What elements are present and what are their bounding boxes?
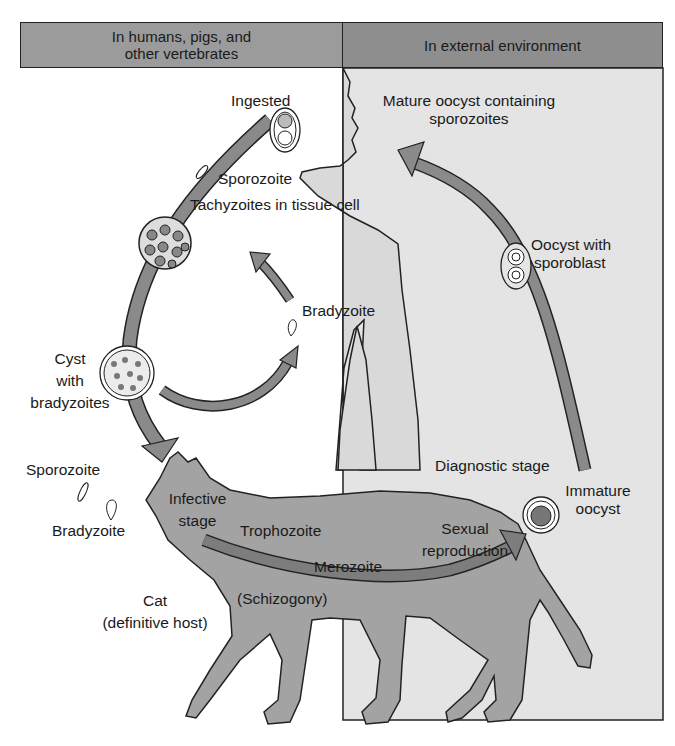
label-tachyzoites: Tachyzoites in tissue cell [190, 196, 360, 214]
label-merozoite: Merozoite [314, 558, 382, 576]
ingested-oocyst-icon [270, 108, 300, 152]
label-cat-line1: Cat [95, 592, 215, 610]
label-sexual-line2: reproduction [420, 542, 510, 560]
label-sporozoite-top: Sporozoite [218, 170, 292, 188]
label-cyst-with-bradyzoites: Cyst with bradyzoites [20, 350, 120, 412]
label-infective-stage: Infective stage [160, 490, 235, 530]
immature-oocyst-icon [523, 497, 559, 533]
tachyzoites-tissue-cell-icon [139, 217, 191, 269]
header-right-label: In external environment [424, 37, 581, 54]
oocyst-with-sporoblast-icon [501, 243, 531, 289]
label-mature-oocyst-line2: sporozoites [354, 110, 584, 128]
label-cyst-line2: with [20, 372, 120, 390]
label-trophozoite: Trophozoite [240, 522, 321, 540]
label-diagnostic-stage: Diagnostic stage [435, 457, 550, 475]
bradyzoite-icon-left [107, 500, 117, 520]
sporozoite-icon-left [76, 482, 90, 503]
toxoplasma-life-cycle-diagram: In humans, pigs, and other vertebrates I… [0, 0, 675, 746]
label-oocyst-sporoblast: Oocyst with sporoblast [531, 236, 611, 272]
label-infective-line1: Infective [160, 490, 235, 508]
label-immature-line1: Immature [558, 482, 638, 500]
label-cyst-line1: Cyst [20, 350, 120, 368]
label-oocyst-sporoblast-line1: Oocyst with [531, 236, 611, 254]
header-left-line1: In humans, pigs, and [112, 28, 251, 45]
label-bradyzoite-mid: Bradyzoite [302, 302, 375, 320]
label-sexual-line1: Sexual [420, 520, 510, 538]
label-immature-oocyst: Immature oocyst [558, 482, 638, 518]
label-mature-oocyst: Mature oocyst containing sporozoites [354, 92, 584, 128]
label-cyst-line3: bradyzoites [20, 394, 120, 412]
label-oocyst-sporoblast-line2: sporoblast [531, 254, 611, 272]
label-cat-line2: (definitive host) [95, 614, 215, 632]
label-cat-definitive-host: Cat (definitive host) [95, 592, 215, 632]
label-immature-line2: oocyst [558, 500, 638, 518]
header-external-environment: In external environment [342, 22, 663, 68]
header-left-line2: other vertebrates [112, 45, 251, 62]
label-ingested: Ingested [231, 92, 290, 110]
label-schizogony: (Schizogony) [237, 590, 327, 608]
label-infective-line2: stage [160, 512, 235, 530]
label-bradyzoite-left: Bradyzoite [52, 522, 125, 540]
label-sporozoite-left: Sporozoite [26, 461, 100, 479]
label-mature-oocyst-line1: Mature oocyst containing [354, 92, 584, 110]
label-sexual-reproduction: Sexual reproduction [420, 520, 510, 560]
header-humans-pigs-vertebrates: In humans, pigs, and other vertebrates [20, 22, 343, 68]
